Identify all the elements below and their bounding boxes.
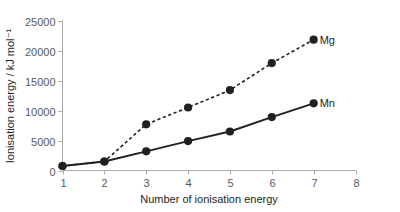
y-tick-label: 15000	[25, 76, 56, 88]
series-label-mg: Mg	[320, 34, 335, 46]
y-axis-tick-labels: 0500010000150002000025000	[25, 16, 56, 178]
x-tick-label: 7	[311, 177, 317, 189]
chart-canvas: 0500010000150002000025000 12345678 Mg Mn…	[0, 0, 400, 212]
data-point-marker	[226, 127, 234, 135]
x-tick-label: 6	[269, 177, 275, 189]
x-tick-label: 8	[353, 177, 359, 189]
data-point-marker	[142, 147, 150, 155]
x-tick-label: 1	[60, 177, 66, 189]
data-point-marker	[184, 103, 192, 111]
y-tick-label: 5000	[31, 136, 55, 148]
x-tick-label: 4	[185, 177, 191, 189]
series-label-mn: Mn	[320, 97, 335, 109]
data-point-marker	[310, 36, 318, 44]
y-tick-label: 25000	[25, 16, 56, 28]
data-point-marker	[100, 157, 108, 165]
x-axis-ticks	[64, 171, 357, 175]
y-tick-label: 20000	[25, 46, 56, 58]
y-tick-label: 10000	[25, 106, 56, 118]
x-tick-label: 5	[227, 177, 233, 189]
data-point-marker	[58, 162, 66, 170]
series-markers-mg	[58, 36, 317, 170]
series-line-mn	[63, 103, 314, 166]
data-point-marker	[310, 99, 318, 107]
x-tick-label: 2	[101, 177, 107, 189]
x-tick-label: 3	[143, 177, 149, 189]
x-axis-tick-labels: 12345678	[60, 177, 359, 189]
data-point-marker	[226, 86, 234, 94]
series-line-mg	[63, 40, 314, 166]
data-point-marker	[184, 137, 192, 145]
data-point-marker	[268, 59, 276, 67]
data-point-marker	[268, 113, 276, 121]
data-point-marker	[142, 120, 150, 128]
y-axis-title: Ionisation energy / kJ mol⁻¹	[4, 28, 16, 163]
x-axis-title: Number of ionisation energy	[140, 193, 278, 205]
y-tick-label: 0	[49, 166, 55, 178]
y-axis-ticks	[59, 22, 63, 172]
chart-figure: 0500010000150002000025000 12345678 Mg Mn…	[0, 0, 400, 212]
